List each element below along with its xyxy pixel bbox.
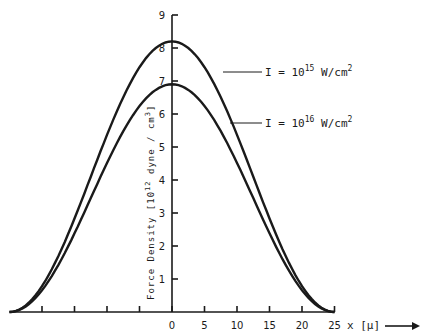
force-density-chart: 0510152025123456789Force Density [1012 d… <box>0 0 427 335</box>
y-axis-label: Force Density [1012 dyne / cm3] <box>144 105 156 300</box>
y-tick-label: 6 <box>159 109 165 120</box>
y-tick-label: 2 <box>159 241 165 252</box>
x-tick-label: 15 <box>263 320 276 331</box>
y-tick-label: 1 <box>159 274 165 285</box>
x-axis-arrow-head <box>412 322 420 330</box>
axes: 0510152025123456789Force Density [1012 d… <box>10 10 421 332</box>
x-axis-label: x [μ] <box>347 319 380 332</box>
x-tick-label: 25 <box>328 320 341 331</box>
x-tick-label: 10 <box>231 320 244 331</box>
series-label: I = 1016 W/cm2 <box>265 115 353 130</box>
x-tick-label: 20 <box>296 320 309 331</box>
series-label: I = 1015 W/cm2 <box>265 64 353 79</box>
y-tick-label: 4 <box>159 175 165 186</box>
x-tick-label: 0 <box>169 320 175 331</box>
y-tick-label: 9 <box>159 10 165 21</box>
y-tick-label: 5 <box>159 142 165 153</box>
annotations: I = 1015 W/cm2I = 1016 W/cm2 <box>223 64 353 130</box>
x-tick-label: 5 <box>201 320 207 331</box>
y-tick-label: 3 <box>159 208 165 219</box>
